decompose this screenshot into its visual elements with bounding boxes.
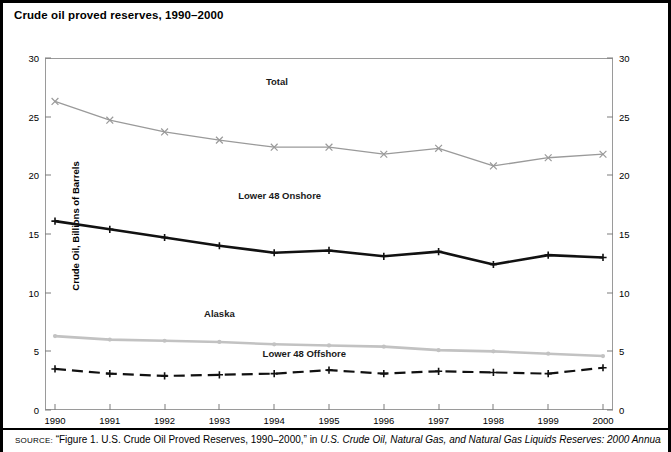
x-tick-mark xyxy=(109,404,110,410)
y-tick-mark-left xyxy=(45,292,51,293)
x-tick-mark xyxy=(383,404,384,410)
source-publication-title: U.S. Crude Oil, Natural Gas, and Natural… xyxy=(320,434,661,445)
x-tick-mark xyxy=(274,404,275,410)
x-tick-mark xyxy=(438,404,439,410)
x-tick-label: 1993 xyxy=(209,415,230,426)
y-tick-mark-right xyxy=(607,175,613,176)
y-tick-label-left: 15 xyxy=(28,229,39,240)
y-tick-mark-right xyxy=(607,58,613,59)
y-tick-mark-left xyxy=(45,58,51,59)
x-tick-label: 1999 xyxy=(538,415,559,426)
y-tick-label-left: 25 xyxy=(28,111,39,122)
x-tick-mark xyxy=(219,404,220,410)
x-tick-mark xyxy=(548,404,549,410)
y-tick-label-right: 0 xyxy=(619,405,624,416)
x-tick-label: 1995 xyxy=(318,415,339,426)
x-tick-mark xyxy=(493,404,494,410)
x-tick-label: 1997 xyxy=(428,415,449,426)
y-tick-mark-right xyxy=(607,116,613,117)
x-tick-label: 1996 xyxy=(373,415,394,426)
series-label-alaska: Alaska xyxy=(204,307,235,318)
top-rule xyxy=(0,0,671,3)
y-tick-label-right: 25 xyxy=(619,111,630,122)
y-tick-mark-left xyxy=(45,351,51,352)
series-label-onshore: Lower 48 Onshore xyxy=(238,190,321,201)
x-tick-label: 2000 xyxy=(592,415,613,426)
y-tick-mark-right xyxy=(607,410,613,411)
chart-plot-area: 0055101015152020252530301990199119921993… xyxy=(45,58,613,410)
left-rule xyxy=(0,0,3,452)
y-tick-mark-left xyxy=(45,175,51,176)
y-tick-mark-right xyxy=(607,351,613,352)
source-quoted-title: “Figure 1. U.S. Crude Oil Proved Reserve… xyxy=(56,434,321,445)
source-divider-rule xyxy=(3,428,668,430)
y-tick-label-right: 5 xyxy=(619,346,624,357)
y-tick-mark-left xyxy=(45,410,51,411)
x-tick-label: 1992 xyxy=(154,415,175,426)
figure-title: Crude oil proved reserves, 1990–2000 xyxy=(14,9,223,21)
x-tick-mark xyxy=(329,404,330,410)
y-tick-mark-left xyxy=(45,116,51,117)
y-tick-mark-left xyxy=(45,234,51,235)
y-tick-label-left: 30 xyxy=(28,53,39,64)
y-tick-label-right: 10 xyxy=(619,287,630,298)
y-tick-label-right: 15 xyxy=(619,229,630,240)
x-tick-label: 1990 xyxy=(44,415,65,426)
source-prefix: SOURCE: xyxy=(15,436,53,445)
y-tick-mark-right xyxy=(607,292,613,293)
series-label-offshore: Lower 48 Offshore xyxy=(263,348,346,359)
figure-page: Crude oil proved reserves, 1990–2000 Cru… xyxy=(0,0,671,452)
y-tick-label-left: 5 xyxy=(34,346,39,357)
y-tick-label-left: 20 xyxy=(28,170,39,181)
y-tick-mark-right xyxy=(607,234,613,235)
y-tick-label-left: 10 xyxy=(28,287,39,298)
x-tick-label: 1994 xyxy=(264,415,285,426)
source-note: SOURCE: “Figure 1. U.S. Crude Oil Proved… xyxy=(15,434,661,446)
x-tick-mark xyxy=(603,404,604,410)
series-label-total: Total xyxy=(266,76,288,87)
x-tick-mark xyxy=(164,404,165,410)
y-tick-label-right: 30 xyxy=(619,53,630,64)
x-tick-label: 1998 xyxy=(483,415,504,426)
x-tick-mark xyxy=(55,404,56,410)
y-tick-label-left: 0 xyxy=(34,405,39,416)
x-tick-label: 1991 xyxy=(99,415,120,426)
y-tick-label-right: 20 xyxy=(619,170,630,181)
